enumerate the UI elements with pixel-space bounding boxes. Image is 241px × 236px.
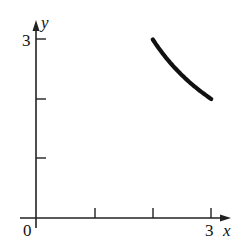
x-max-label: 3 <box>205 221 214 236</box>
origin-label: 0 <box>23 221 32 236</box>
y-axis-arrow-icon <box>33 20 40 31</box>
y-max-label: 3 <box>22 31 31 50</box>
curve-series <box>153 40 211 100</box>
x-axis-name: x <box>222 221 231 236</box>
y-axis-name: y <box>39 13 49 32</box>
chart: 0 3 y 3 x <box>0 0 241 236</box>
